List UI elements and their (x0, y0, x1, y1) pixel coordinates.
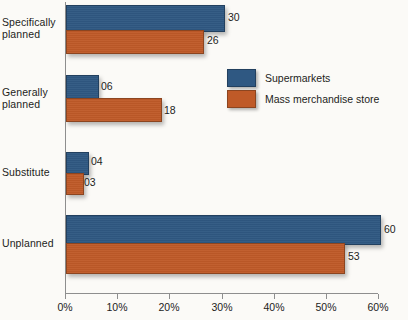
legend-label: Mass merchandise store (265, 93, 379, 105)
category-label-line-2: planned (2, 28, 62, 40)
category-label-line-1: Substitute (2, 166, 62, 178)
x-axis-tick-label: 60% (367, 301, 388, 313)
bar-mass-merchandise-generally-planned (66, 98, 162, 122)
bar-value-label: 04 (91, 155, 103, 167)
category-label-specifically-planned: Specifically planned (2, 16, 62, 40)
legend: Supermarkets Mass merchandise store (227, 69, 379, 111)
category-label-line-1: Unplanned (2, 237, 62, 249)
bar-chart: Specifically planned Generally planned S… (0, 0, 408, 320)
x-axis-tick (222, 294, 223, 299)
bar-value-label: 06 (101, 80, 113, 92)
bar-value-label: 26 (207, 34, 219, 46)
x-axis-tick-label: 50% (315, 301, 336, 313)
legend-label: Supermarkets (265, 72, 330, 84)
x-axis-tick-label: 20% (158, 301, 179, 313)
bar-supermarkets-unplanned (66, 215, 381, 245)
x-axis-tick (117, 294, 118, 299)
x-axis-tick-label: 0% (57, 301, 72, 313)
x-axis-tick-label: 40% (263, 301, 284, 313)
x-axis-tick-label: 30% (211, 301, 232, 313)
bar-value-label: 53 (348, 250, 360, 262)
bar-mass-merchandise-unplanned (66, 243, 345, 274)
x-axis-tick (65, 294, 66, 299)
legend-item-supermarkets: Supermarkets (227, 69, 379, 87)
legend-item-mass-merchandise-store: Mass merchandise store (227, 90, 379, 108)
legend-swatch-icon (227, 90, 256, 108)
bar-mass-merchandise-substitute (66, 173, 84, 195)
category-label-generally-planned: Generally planned (2, 86, 62, 110)
legend-swatch-icon (227, 69, 256, 87)
bar-value-label: 18 (164, 104, 176, 116)
bar-mass-merchandise-specifically-planned (66, 30, 204, 54)
bar-supermarkets-generally-planned (66, 75, 99, 100)
x-axis-tick-label: 10% (106, 301, 127, 313)
category-label-substitute: Substitute (2, 166, 62, 178)
bar-supermarkets-substitute (66, 152, 89, 175)
bar-value-label: 30 (228, 11, 240, 23)
x-axis-tick (326, 294, 327, 299)
bar-value-label: 03 (84, 176, 96, 188)
x-axis-tick (378, 294, 379, 299)
category-label-unplanned: Unplanned (2, 237, 62, 249)
bar-value-label: 60 (384, 223, 396, 235)
category-label-line-1: Specifically (2, 16, 62, 28)
x-axis-tick (169, 294, 170, 299)
bar-supermarkets-specifically-planned (66, 5, 225, 32)
category-label-line-2: planned (2, 98, 62, 110)
category-label-line-1: Generally (2, 86, 62, 98)
x-axis-tick (274, 294, 275, 299)
